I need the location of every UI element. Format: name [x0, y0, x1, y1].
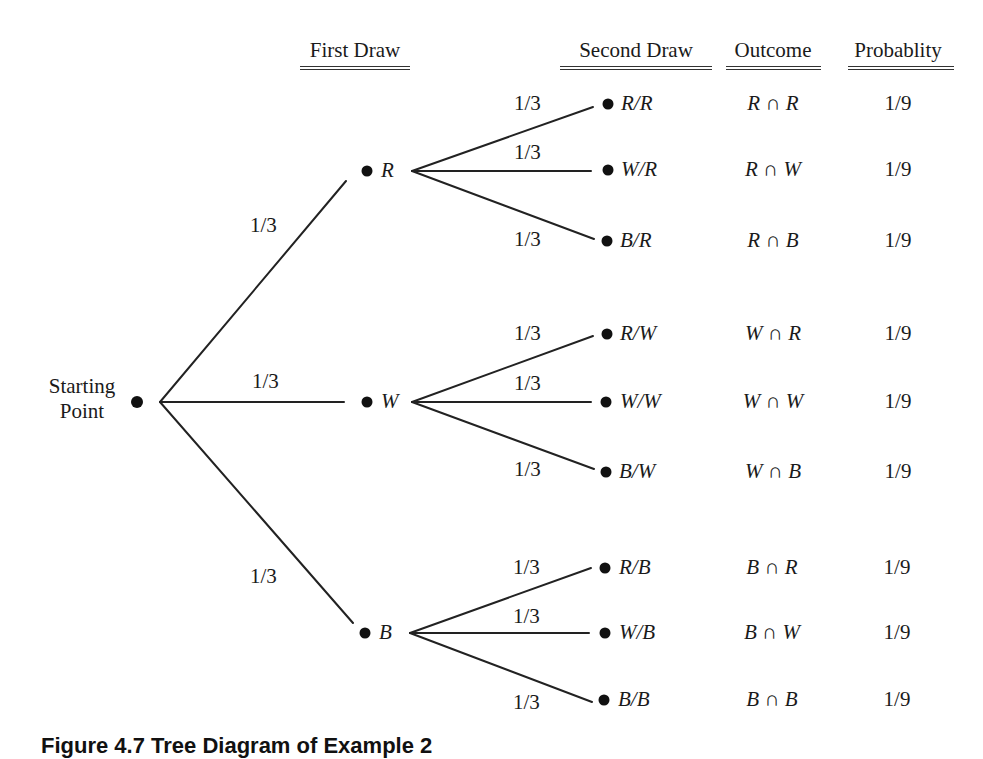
probability-bb: 1/9: [884, 689, 911, 710]
node-dot-bw: [601, 467, 612, 478]
header-second-draw: Second Draw: [579, 40, 693, 61]
node-dot-br: [602, 236, 613, 247]
prob-start-to-w: 1/3: [252, 371, 279, 392]
node-dot-b: [360, 628, 371, 639]
branch-b-to-bb: [410, 633, 592, 702]
node-dot-wr: [603, 165, 614, 176]
node-label-r: R: [381, 160, 394, 181]
node-label-ww: W/W: [620, 391, 661, 412]
node-label-rb: R/B: [619, 557, 651, 578]
header-probability-underline: [848, 66, 954, 70]
branch-start-to-b: [160, 402, 353, 623]
outcome-bb: B ∩ B: [746, 689, 797, 710]
prob-start-to-b: 1/3: [250, 566, 277, 587]
prob-w-to-ww: 1/3: [514, 373, 541, 394]
node-label-wb: W/B: [619, 622, 655, 643]
branch-r-to-rr: [412, 107, 593, 171]
starting-point-label: Starting Point: [40, 374, 124, 424]
node-label-rr: R/R: [621, 93, 653, 114]
probability-br: 1/9: [885, 230, 912, 251]
probability-rr: 1/9: [885, 93, 912, 114]
outcome-wr: R ∩ W: [745, 159, 801, 180]
branch-r-to-br: [412, 171, 594, 239]
node-dot-rr: [603, 99, 614, 110]
node-dot-ww: [601, 397, 612, 408]
prob-start-to-r: 1/3: [250, 215, 277, 236]
outcome-br: R ∩ B: [747, 230, 798, 251]
starting-point-line1: Starting: [40, 374, 124, 399]
node-label-rw: R/W: [620, 323, 656, 344]
prob-r-to-wr: 1/3: [514, 142, 541, 163]
node-dot-rw: [602, 329, 613, 340]
probability-bw: 1/9: [885, 461, 912, 482]
node-label-bw: B/W: [619, 461, 655, 482]
outcome-rr: R ∩ R: [747, 93, 798, 114]
probability-rw: 1/9: [885, 323, 912, 344]
outcome-ww: W ∩ W: [743, 391, 804, 412]
prob-r-to-rr: 1/3: [514, 93, 541, 114]
outcome-rb: B ∩ R: [746, 557, 797, 578]
prob-w-to-bw: 1/3: [514, 459, 541, 480]
header-outcome-underline: [726, 66, 821, 70]
prob-b-to-bb: 1/3: [513, 692, 540, 713]
header-outcome: Outcome: [735, 40, 812, 61]
prob-b-to-wb: 1/3: [513, 606, 540, 627]
header-first-draw: First Draw: [310, 40, 400, 61]
node-dot-bb: [599, 695, 610, 706]
node-dot-rb: [600, 563, 611, 574]
prob-w-to-rw: 1/3: [514, 323, 541, 344]
probability-wr: 1/9: [885, 159, 912, 180]
header-first-draw-underline: [300, 66, 410, 70]
header-probability: Probablity: [854, 40, 942, 61]
branch-b-to-rb: [410, 568, 591, 633]
probability-wb: 1/9: [884, 622, 911, 643]
branch-w-to-bw: [412, 402, 594, 469]
outcome-wb: B ∩ W: [744, 622, 800, 643]
node-label-b: B: [379, 622, 392, 643]
probability-ww: 1/9: [885, 391, 912, 412]
node-label-w: W: [381, 391, 399, 412]
starting-point-line2: Point: [40, 399, 124, 424]
prob-b-to-rb: 1/3: [513, 557, 540, 578]
node-label-wr: W/R: [621, 159, 657, 180]
prob-r-to-br: 1/3: [514, 229, 541, 250]
node-dot-r: [362, 166, 373, 177]
outcome-bw: W ∩ B: [745, 461, 801, 482]
probability-rb: 1/9: [884, 557, 911, 578]
node-dot-w: [362, 397, 373, 408]
outcome-rw: W ∩ R: [745, 323, 801, 344]
node-label-bb: B/B: [618, 689, 650, 710]
header-second-draw-underline: [560, 66, 712, 70]
node-label-br: B/R: [620, 230, 652, 251]
branch-w-to-rw: [412, 336, 593, 402]
node-dot-wb: [600, 628, 611, 639]
figure-caption: Figure 4.7 Tree Diagram of Example 2: [41, 733, 432, 759]
start-node-dot: [131, 396, 143, 408]
